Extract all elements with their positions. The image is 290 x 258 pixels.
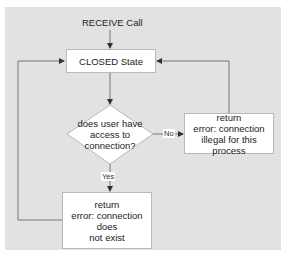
decision-line-2: access to <box>90 129 130 140</box>
edge-notexist-to-closed <box>18 61 64 220</box>
closed-state-label: CLOSED State <box>79 56 143 67</box>
notexist-line-1: return <box>95 199 120 210</box>
decision-line-1: does user have <box>78 118 143 129</box>
edge-illegal-to-closed <box>157 61 229 113</box>
illegal-line-3: illegal for this process <box>185 134 273 156</box>
decision-node: does user have access to connection? <box>72 116 148 152</box>
illegal-process-node: return error: connection illegal for thi… <box>184 113 274 154</box>
edge-label-yes: Yes <box>101 172 115 181</box>
not-exist-node: return error: connection does not exist <box>62 192 152 249</box>
decision-line-3: connection? <box>84 140 135 151</box>
edge-label-no: No <box>163 129 175 138</box>
illegal-line-1: return <box>217 112 242 123</box>
closed-state-node: CLOSED State <box>66 49 156 73</box>
illegal-line-2: error: connection <box>193 123 264 134</box>
start-label: RECEIVE Call <box>82 17 143 28</box>
notexist-line-3: not exist <box>89 232 124 243</box>
notexist-line-2: error: connection does <box>63 210 151 232</box>
